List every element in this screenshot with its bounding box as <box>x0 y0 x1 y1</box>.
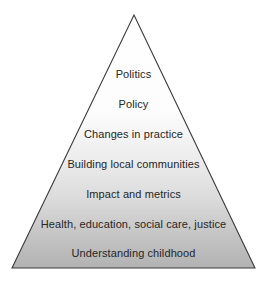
pyramid-level-1-label: Politics <box>0 68 267 80</box>
pyramid-label-layer: Politics Policy Changes in practice Buil… <box>0 0 267 281</box>
pyramid-level-4-label: Building local communities <box>0 158 267 170</box>
pyramid-level-2-label: Policy <box>0 98 267 110</box>
pyramid-level-7-label: Understanding childhood <box>0 247 267 259</box>
pyramid-level-3-label: Changes in practice <box>0 128 267 140</box>
pyramid-level-6-label: Health, education, social care, justice <box>0 218 267 230</box>
pyramid-diagram: Politics Policy Changes in practice Buil… <box>0 0 267 281</box>
pyramid-level-5-label: Impact and metrics <box>0 188 267 200</box>
